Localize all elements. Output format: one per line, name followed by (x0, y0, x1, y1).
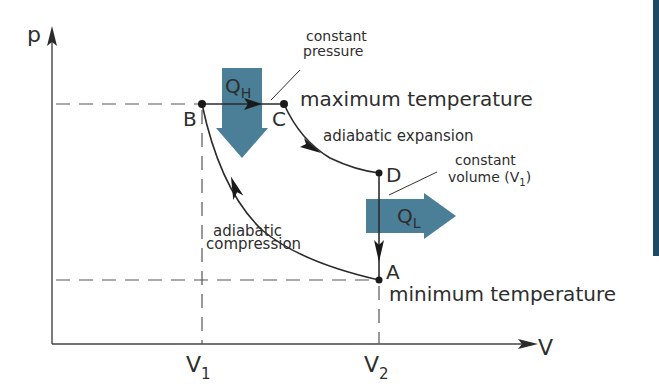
p-axis (47, 26, 57, 344)
point-d-label: D (386, 163, 401, 187)
arrow-cd-icon (300, 138, 321, 153)
v2-tick-label: V2 (364, 352, 389, 383)
point-c-label: C (272, 107, 286, 131)
heat-in-arrow-icon (216, 68, 268, 158)
point-b-dot (198, 100, 206, 108)
point-d-dot (376, 170, 383, 177)
heat-in-arrow: QH (216, 68, 268, 158)
v1-tick-label: V1 (186, 352, 211, 383)
constant-volume-line2: volume (V1) (448, 169, 531, 188)
point-b-label: B (183, 107, 197, 131)
point-a-dot (376, 277, 383, 284)
constant-pressure-line1: constant (306, 28, 367, 44)
min-temp-label: minimum temperature (389, 282, 616, 306)
v-axis-label: V (538, 335, 553, 360)
v-axis (52, 339, 538, 349)
constant-volume-line1: constant (455, 152, 516, 168)
p-axis-label: p (27, 22, 41, 47)
arrow-ab-icon (226, 175, 244, 200)
point-a-label: A (386, 260, 400, 284)
edge-bar (653, 0, 659, 256)
leader-constant-pressure (271, 70, 300, 100)
max-temp-label: maximum temperature (300, 87, 533, 111)
constant-pressure-line2: pressure (303, 43, 363, 59)
pv-diagram: p V V1 V2 QH QL B C (0, 0, 659, 391)
adiabatic-expansion-label: adiabatic expansion (323, 127, 474, 145)
adiabatic-compression-line2: compression (206, 235, 301, 253)
